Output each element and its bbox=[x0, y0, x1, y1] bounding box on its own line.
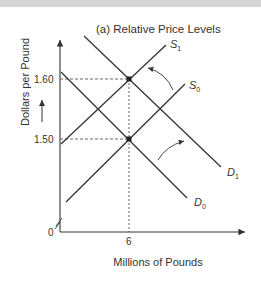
y-axis-label: Dollars per Pound bbox=[19, 38, 31, 126]
x-axis-label: Millions of Pounds bbox=[113, 256, 203, 268]
axis-break-icon bbox=[55, 218, 62, 229]
demand-curve-d1 bbox=[84, 36, 221, 167]
equilibrium-point-150 bbox=[127, 137, 132, 142]
diagram: (a) Relative Price Levels 0 Dollars per … bbox=[0, 0, 261, 281]
y-tick-160: 1.60 bbox=[34, 74, 54, 85]
supply-shift-arrow-icon bbox=[148, 68, 173, 90]
demand-shift-arrow-icon bbox=[158, 141, 184, 160]
label-s0: S0 bbox=[189, 79, 200, 93]
equilibrium-point-160 bbox=[127, 77, 132, 82]
supply-curve-s1 bbox=[61, 45, 166, 144]
supply-demand-chart: (a) Relative Price Levels 0 Dollars per … bbox=[0, 0, 261, 281]
x-tick-6: 6 bbox=[126, 236, 132, 247]
label-d0: D0 bbox=[194, 196, 206, 210]
demand-curve-d0 bbox=[61, 72, 187, 198]
y-tick-150: 1.50 bbox=[34, 134, 54, 145]
origin-label: 0 bbox=[48, 227, 54, 238]
label-s1: S1 bbox=[170, 38, 181, 52]
label-d1: D1 bbox=[227, 166, 239, 180]
supply-curve-s0 bbox=[66, 84, 185, 202]
chart-title: (a) Relative Price Levels bbox=[96, 23, 221, 35]
